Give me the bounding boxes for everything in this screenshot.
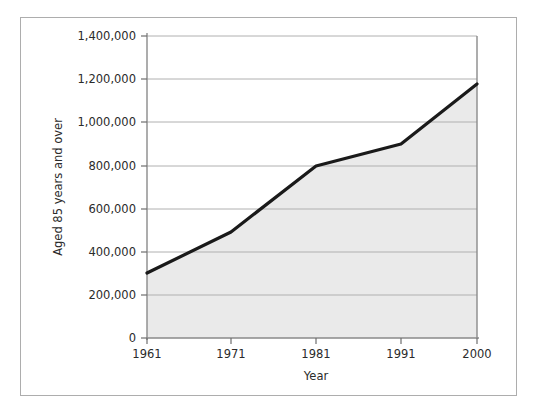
- x-tick-label-1991: 1991: [386, 347, 415, 361]
- y-tick-label-0: 0: [129, 331, 136, 345]
- y-axis-title: Aged 85 years and over: [51, 118, 65, 256]
- x-axis-tick-labels: 1961 1971 1981 1991 2000: [132, 347, 491, 361]
- area-chart: 1,400,000 1,200,000 1,000,000 800,000 60…: [0, 0, 542, 412]
- figure-canvas: 1,400,000 1,200,000 1,000,000 800,000 60…: [0, 0, 542, 412]
- y-tick-label-1200000: 1,200,000: [77, 72, 136, 86]
- plot-area: [147, 36, 477, 338]
- y-tick-label-600000: 600,000: [88, 202, 136, 216]
- y-axis: [141, 33, 147, 340]
- x-axis: [147, 338, 479, 344]
- x-axis-ticks: [147, 338, 477, 344]
- x-tick-label-1961: 1961: [132, 347, 161, 361]
- x-tick-label-1971: 1971: [216, 347, 245, 361]
- x-tick-label-1981: 1981: [301, 347, 330, 361]
- y-axis-tick-labels: 1,400,000 1,200,000 1,000,000 800,000 60…: [77, 29, 136, 345]
- y-tick-label-1000000: 1,000,000: [77, 115, 136, 129]
- x-axis-title: Year: [303, 369, 329, 383]
- y-tick-label-1400000: 1,400,000: [77, 29, 136, 43]
- y-tick-label-400000: 400,000: [88, 245, 136, 259]
- y-tick-label-800000: 800,000: [88, 159, 136, 173]
- x-tick-label-2000: 2000: [462, 347, 491, 361]
- y-tick-label-200000: 200,000: [88, 288, 136, 302]
- y-axis-ticks: [141, 36, 147, 338]
